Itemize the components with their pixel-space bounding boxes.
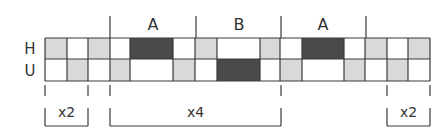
bracket-x2: x2 — [387, 85, 430, 126]
cell-h-white — [67, 38, 88, 59]
row-labels: H U — [24, 40, 35, 80]
cell-u-white — [260, 59, 280, 81]
cell-u-white — [195, 59, 217, 81]
cell-u-light — [67, 59, 88, 81]
cell-u-white — [45, 59, 67, 81]
cell-u-white — [88, 59, 110, 81]
bracket-label: x4 — [187, 104, 204, 120]
cell-u-light — [387, 59, 408, 81]
cell-u-light — [110, 59, 130, 81]
cell-h-light — [195, 38, 217, 59]
row-label-u: U — [25, 62, 36, 80]
cell-h-white — [344, 38, 365, 59]
bracket-label: x2 — [58, 104, 75, 120]
cell-u-white — [302, 59, 344, 81]
cell-u-dark — [217, 59, 260, 81]
timing-diagram: ABA H U x2x4x2 — [0, 0, 444, 134]
cell-h-dark — [302, 38, 344, 59]
cell-u-white — [130, 59, 173, 81]
cell-h-light — [260, 38, 280, 59]
cell-u-white — [365, 59, 387, 81]
repeat-brackets: x2x4x2 — [45, 85, 430, 126]
cell-h-white — [280, 38, 302, 59]
cell-u-light — [173, 59, 195, 81]
section-label: B — [234, 15, 245, 34]
cell-h-white — [110, 38, 130, 59]
cell-h-white — [387, 38, 408, 59]
section-label: A — [318, 15, 329, 34]
cell-h-dark — [130, 38, 173, 59]
cell-h-light — [365, 38, 387, 59]
cell-u-white — [408, 59, 430, 81]
cell-h-white — [173, 38, 195, 59]
bracket-x2: x2 — [45, 85, 88, 126]
section-labels: ABA — [148, 15, 329, 34]
cell-h-light — [408, 38, 430, 59]
cell-u-light — [280, 59, 302, 81]
cell-h-light — [45, 38, 67, 59]
section-label: A — [148, 15, 159, 34]
row-label-h: H — [24, 40, 35, 58]
bracket-x4: x4 — [110, 85, 281, 126]
bracket-label: x2 — [400, 104, 417, 120]
cell-u-light — [344, 59, 365, 81]
cell-h-light — [88, 38, 110, 59]
cell-h-white — [217, 38, 260, 59]
